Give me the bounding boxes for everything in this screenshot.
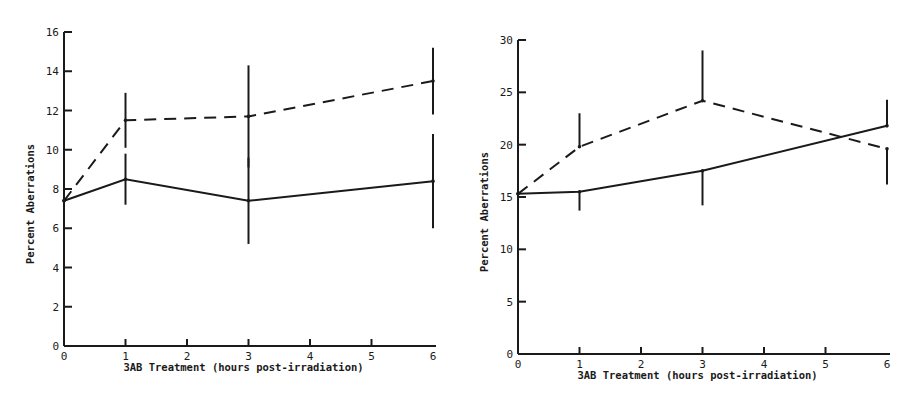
data-point <box>124 177 128 181</box>
data-point <box>247 199 251 203</box>
y-tick-label: 5 <box>506 296 513 309</box>
y-tick-label: 12 <box>46 105 59 118</box>
right-chart: 05101520253001234563AB Treatment (hours … <box>478 34 890 381</box>
x-tick-label: 6 <box>884 358 891 371</box>
y-tick-label: 0 <box>52 340 59 353</box>
data-point <box>431 79 435 83</box>
data-point <box>431 179 435 183</box>
y-tick-label: 20 <box>500 139 513 152</box>
x-tick-label: 0 <box>515 358 522 371</box>
x-tick-label: 5 <box>368 350 375 363</box>
y-tick-label: 8 <box>52 183 59 196</box>
y-axis-label: Percent Aberrations <box>478 152 490 272</box>
data-point <box>701 169 705 173</box>
x-axis-label: 3AB Treatment (hours post-irradiation) <box>123 361 363 373</box>
y-tick-label: 0 <box>506 348 513 361</box>
y-tick-label: 15 <box>500 191 513 204</box>
data-point <box>124 119 128 123</box>
y-tick-label: 25 <box>500 86 513 99</box>
data-point <box>247 115 251 119</box>
data-point <box>885 124 889 128</box>
y-tick-label: 30 <box>500 34 513 47</box>
left-chart: 024681012141601234563AB Treatment (hours… <box>24 26 436 373</box>
data-point <box>701 99 705 103</box>
y-tick-label: 10 <box>46 144 59 157</box>
data-point <box>516 192 520 196</box>
x-tick-label: 5 <box>822 358 829 371</box>
y-tick-label: 2 <box>52 301 59 314</box>
figure: 024681012141601234563AB Treatment (hours… <box>0 0 920 406</box>
x-axis-label: 3AB Treatment (hours post-irradiation) <box>577 369 817 381</box>
y-tick-label: 16 <box>46 26 59 39</box>
data-point <box>578 190 582 194</box>
y-tick-label: 4 <box>52 262 59 275</box>
y-tick-label: 6 <box>52 222 59 235</box>
data-point <box>62 199 66 203</box>
x-tick-label: 6 <box>430 350 437 363</box>
y-tick-label: 10 <box>500 243 513 256</box>
x-tick-label: 0 <box>61 350 68 363</box>
y-axis-label: Percent Aberrations <box>24 144 36 264</box>
data-point <box>578 145 582 149</box>
data-point <box>885 147 889 151</box>
y-tick-label: 14 <box>46 65 60 78</box>
